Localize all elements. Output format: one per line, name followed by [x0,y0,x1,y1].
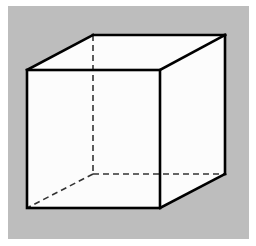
cube-silhouette-fill [27,35,225,208]
cube-diagram [0,0,256,246]
diagram-canvas [0,0,256,246]
